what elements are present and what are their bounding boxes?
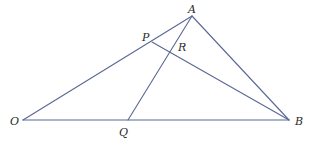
diagram-lines: [0, 0, 311, 142]
segment-PB: [152, 42, 289, 120]
point-label-A: A: [188, 4, 196, 15]
triangle-diagram: A P R O Q B: [0, 0, 311, 142]
point-label-P: P: [142, 32, 149, 43]
point-label-O: O: [10, 116, 19, 127]
segment-AQ: [128, 16, 192, 120]
segment-AB: [192, 16, 289, 120]
point-label-Q: Q: [119, 127, 128, 138]
point-label-R: R: [178, 42, 186, 53]
point-label-B: B: [295, 116, 303, 127]
segment-OA: [23, 16, 192, 120]
